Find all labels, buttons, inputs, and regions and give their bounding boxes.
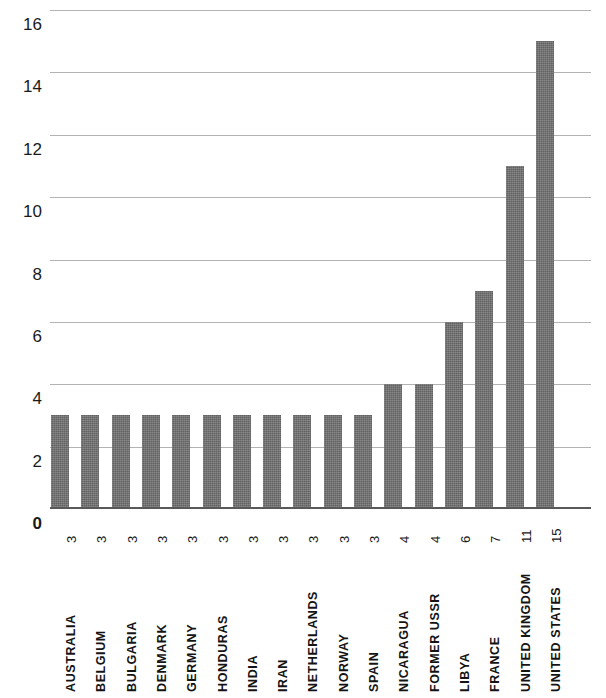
x-axis-category-label: NICARAGUA bbox=[398, 610, 411, 692]
bar bbox=[233, 415, 251, 509]
bar-value-label: 3 bbox=[338, 536, 351, 543]
x-axis-category-label: NETHERLANDS bbox=[307, 591, 320, 692]
bar-value-labels: 3333333333344671115 bbox=[50, 513, 591, 547]
y-tick-label-2: 2 bbox=[0, 453, 42, 470]
x-axis-category-label: IRAN bbox=[277, 659, 290, 692]
y-axis-tick-labels: 0246810121416 bbox=[0, 0, 42, 698]
x-axis-category-label: SPAIN bbox=[368, 652, 381, 692]
x-axis-category-label: UNITED STATES bbox=[550, 587, 563, 692]
bar-value-label: 3 bbox=[277, 536, 290, 543]
y-tick-label-0: 0 bbox=[0, 515, 42, 532]
bar bbox=[51, 415, 69, 509]
y-tick-label-12: 12 bbox=[0, 141, 42, 158]
bar-value-label: 3 bbox=[247, 536, 260, 543]
bar bbox=[142, 415, 160, 509]
y-tick-label-8: 8 bbox=[0, 266, 42, 283]
bar-value-label: 3 bbox=[186, 536, 199, 543]
bar bbox=[415, 384, 433, 509]
y-tick-label-10: 10 bbox=[0, 203, 42, 220]
plot-area bbox=[50, 10, 591, 509]
bar-value-label: 3 bbox=[126, 536, 139, 543]
gridline-16 bbox=[50, 10, 591, 11]
bar-value-label: 4 bbox=[429, 536, 442, 543]
bar-value-label: 3 bbox=[368, 536, 381, 543]
bar-chart: 0246810121416 3333333333344671115 AUSTRA… bbox=[0, 0, 606, 698]
gridline-12 bbox=[50, 135, 591, 136]
bar bbox=[324, 415, 342, 509]
x-axis-category-label: LIBYA bbox=[459, 653, 472, 692]
bar-value-label: 15 bbox=[550, 529, 563, 543]
x-axis-category-label: BELGIUM bbox=[95, 630, 108, 692]
bar-value-label: 3 bbox=[65, 536, 78, 543]
x-axis-category-label: FRANCE bbox=[489, 636, 502, 692]
bar-value-label: 7 bbox=[489, 536, 502, 543]
x-axis-category-label: HONDURAS bbox=[217, 615, 230, 692]
bar bbox=[81, 415, 99, 509]
bar bbox=[506, 166, 524, 509]
bar bbox=[445, 322, 463, 509]
bar bbox=[263, 415, 281, 509]
x-axis-category-label: UNITED KINGDOM bbox=[520, 573, 533, 692]
x-axis-baseline bbox=[50, 507, 591, 509]
bar bbox=[293, 415, 311, 509]
x-axis-category-labels: AUSTRALIABELGIUMBULGARIADENMARKGERMANYHO… bbox=[50, 549, 591, 698]
bar bbox=[475, 291, 493, 509]
bar bbox=[112, 415, 130, 509]
bar-value-label: 6 bbox=[459, 536, 472, 543]
bar bbox=[172, 415, 190, 509]
bar-value-label: 3 bbox=[95, 536, 108, 543]
bar-value-label: 4 bbox=[398, 536, 411, 543]
bar bbox=[203, 415, 221, 509]
gridline-14 bbox=[50, 72, 591, 73]
y-tick-label-4: 4 bbox=[0, 390, 42, 407]
bar-value-label: 3 bbox=[156, 536, 169, 543]
x-axis-category-label: BULGARIA bbox=[126, 621, 139, 692]
x-axis-category-label: NORWAY bbox=[338, 634, 351, 692]
bar bbox=[384, 384, 402, 509]
y-tick-label-14: 14 bbox=[0, 78, 42, 95]
x-axis-category-label: GERMANY bbox=[186, 624, 199, 692]
bar bbox=[354, 415, 372, 509]
x-axis-category-label: INDIA bbox=[247, 655, 260, 692]
bar-value-label: 3 bbox=[307, 536, 320, 543]
bar-value-label: 11 bbox=[520, 530, 533, 544]
y-tick-label-6: 6 bbox=[0, 328, 42, 345]
x-axis-category-label: FORMER USSR bbox=[429, 593, 442, 692]
bar-value-label: 3 bbox=[217, 536, 230, 543]
x-axis-category-label: DENMARK bbox=[156, 624, 169, 692]
x-axis-category-label: AUSTRALIA bbox=[65, 614, 78, 692]
bar bbox=[536, 41, 554, 509]
y-tick-label-16: 16 bbox=[0, 16, 42, 33]
